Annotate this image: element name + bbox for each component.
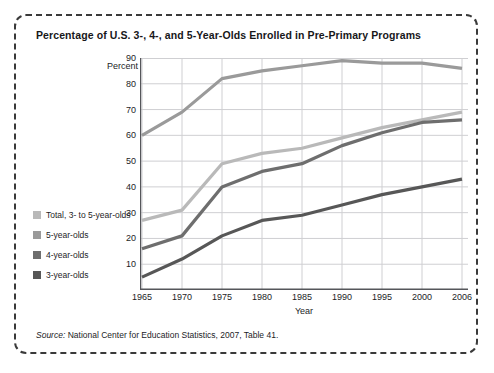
x-tick-1970: 1970: [172, 292, 192, 302]
source-prefix: Source:: [36, 330, 65, 340]
legend-item[interactable]: 3-year-olds: [33, 270, 131, 281]
line-chart-svg: [140, 58, 468, 290]
x-tick-1980: 1980: [252, 292, 272, 302]
x-tick-1990: 1990: [332, 292, 352, 302]
x-axis-title: Year: [140, 306, 468, 316]
y-tick-90: 90: [126, 53, 136, 63]
y-tick-50: 50: [126, 156, 136, 166]
legend-swatch-icon: [33, 231, 41, 239]
plot-area: [140, 58, 468, 290]
x-tick-2006: 2006: [452, 292, 472, 302]
chart-page: Percentage of U.S. 3-, 4-, and 5-Year-Ol…: [0, 0, 494, 373]
legend-item[interactable]: 4-year-olds: [33, 250, 131, 261]
y-tick-40: 40: [126, 182, 136, 192]
y-tick-80: 80: [126, 79, 136, 89]
legend-swatch-icon: [33, 211, 41, 219]
page-title: Percentage of U.S. 3-, 4-, and 5-Year-Ol…: [36, 29, 421, 41]
x-tick-1975: 1975: [212, 292, 232, 302]
source-text: National Center for Education Statistics…: [65, 330, 278, 340]
legend-item-label: 3-year-olds: [46, 270, 89, 281]
legend-swatch-icon: [33, 251, 41, 259]
legend-swatch-icon: [33, 271, 41, 279]
x-axis-tick-labels: 196519701975198019851990199520002006: [140, 292, 468, 306]
legend-item[interactable]: Total, 3- to 5-year-olds: [33, 210, 131, 221]
y-tick-70: 70: [126, 105, 136, 115]
y-tick-60: 60: [126, 130, 136, 140]
x-tick-2000: 2000: [412, 292, 432, 302]
legend-item-label: 5-year-olds: [46, 230, 89, 241]
source-note: Source: National Center for Education St…: [36, 330, 278, 340]
legend-item-label: Total, 3- to 5-year-olds: [46, 210, 131, 221]
x-tick-1995: 1995: [372, 292, 392, 302]
legend-item-label: 4-year-olds: [46, 250, 89, 261]
x-tick-1965: 1965: [132, 292, 152, 302]
legend-item[interactable]: 5-year-olds: [33, 230, 131, 241]
chart-legend: Total, 3- to 5-year-olds5-year-olds4-yea…: [33, 210, 131, 290]
x-tick-1985: 1985: [292, 292, 312, 302]
